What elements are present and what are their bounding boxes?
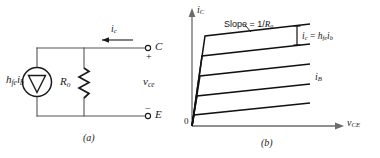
resistor-symbol [79,68,89,98]
x-axis-label: vCE [347,118,360,129]
terminal-e-label: E [155,109,162,120]
panel-b-caption: (b) [261,138,273,148]
panel-a-schematic [0,0,190,158]
terminal-e-node [145,113,150,118]
origin-label: 0 [184,117,189,126]
polarity-plus-label: + [146,52,152,62]
curve-2 [192,84,310,126]
base-current-label: iB [315,72,322,83]
terminal-c-node [145,45,150,50]
collector-current-label: ic [111,24,117,35]
figure-root: hfeib Ro ic C + vce − E (a) [0,0,380,158]
source-label: hfeib [6,74,24,86]
output-voltage-label: vce [143,76,155,88]
curve-4 [192,44,310,126]
polarity-minus-label: − [145,104,151,114]
curve-1 [192,103,310,126]
x-axis [192,123,344,130]
terminal-c-label: C [155,41,162,52]
current-direction-arrow [102,37,133,42]
curve-3 [192,64,310,126]
dependent-current-source-symbol [23,68,52,97]
spacing-dimension-bar [294,26,301,45]
characteristic-curves [192,24,310,126]
curve-5 [192,24,310,126]
resistor-label: Ro [60,76,70,88]
collector-current-equation-label: ic = hfeib [302,32,333,42]
slope-annotation: Slope = 1/Ro [224,20,273,29]
panel-a-caption: (a) [83,133,95,143]
y-axis-label: iC [197,5,204,16]
